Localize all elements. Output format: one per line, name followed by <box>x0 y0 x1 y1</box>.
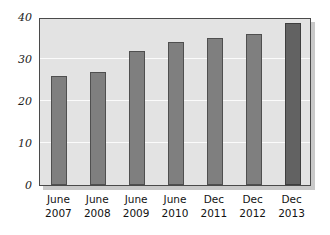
bar <box>168 42 184 185</box>
x-axis-tick-month: June <box>125 193 148 205</box>
x-axis-tick-year: 2013 <box>272 206 311 220</box>
bar-chart-figure: 010203040 June2007June2008June2009June20… <box>0 0 330 235</box>
plot-area <box>39 18 311 186</box>
x-axis-tick-year: 2010 <box>156 206 195 220</box>
x-axis-tick-month: June <box>164 193 187 205</box>
x-axis-tick-month: Dec <box>204 193 224 205</box>
x-axis-tick-month: Dec <box>281 193 301 205</box>
y-axis-tick-label: 30 <box>18 54 32 65</box>
x-axis-tick-month: June <box>47 193 70 205</box>
bar <box>90 72 106 185</box>
x-axis-tick-label: June2007 <box>39 192 78 220</box>
bar <box>285 23 301 185</box>
x-axis-tick-year: 2008 <box>78 206 117 220</box>
x-axis-tick-label: June2008 <box>78 192 117 220</box>
x-axis-tick-month: Dec <box>243 193 263 205</box>
x-axis-tick-label: Dec2013 <box>272 192 311 220</box>
y-axis-tick-label: 0 <box>25 180 32 191</box>
bar <box>246 34 262 185</box>
bar <box>207 38 223 185</box>
x-axis-tick-year: 2009 <box>117 206 156 220</box>
x-axis-tick-month: June <box>86 193 109 205</box>
x-axis-tick-year: 2007 <box>39 206 78 220</box>
x-axis-tick-label: June2009 <box>117 192 156 220</box>
y-axis-tick-label: 10 <box>18 138 32 149</box>
y-axis-tick-label: 20 <box>18 96 32 107</box>
x-axis-tick-year: 2011 <box>194 206 233 220</box>
bar <box>51 76 67 185</box>
x-axis-tick-year: 2012 <box>233 206 272 220</box>
x-axis-tick-label: June2010 <box>156 192 195 220</box>
x-axis-tick-label: Dec2011 <box>194 192 233 220</box>
y-axis: 010203040 <box>0 0 36 235</box>
x-axis-tick-label: Dec2012 <box>233 192 272 220</box>
bar <box>129 51 145 185</box>
y-axis-tick-label: 40 <box>18 12 32 23</box>
x-axis: June2007June2008June2009June2010Dec2011D… <box>39 192 311 234</box>
